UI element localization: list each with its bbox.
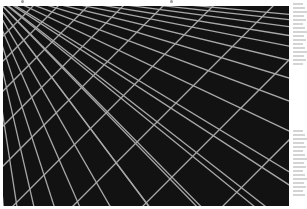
margin-text-line bbox=[293, 63, 303, 65]
grid-lines bbox=[3, 6, 289, 206]
margin-text-line bbox=[293, 3, 303, 5]
margin-text-line bbox=[293, 35, 304, 37]
margin-text-line bbox=[293, 178, 307, 180]
margin-text-line bbox=[293, 194, 305, 196]
margin-text-line bbox=[293, 7, 305, 9]
margin-text-line bbox=[293, 134, 305, 136]
margin-text-line bbox=[293, 130, 303, 132]
margin-text-line bbox=[293, 182, 304, 184]
margin-text-block-upper bbox=[293, 3, 307, 67]
margin-text-block-lower bbox=[293, 130, 307, 198]
margin-text-line bbox=[293, 158, 307, 160]
margin-text-line bbox=[293, 55, 304, 57]
margin-text-line bbox=[293, 146, 306, 148]
margin-text-line bbox=[293, 174, 305, 176]
margin-text-line bbox=[293, 186, 306, 188]
margin-text-line bbox=[293, 162, 304, 164]
margin-text-line bbox=[293, 19, 306, 21]
margin-text-line bbox=[293, 166, 306, 168]
margin-text-line bbox=[293, 15, 304, 17]
text-fragment bbox=[170, 0, 173, 3]
margin-text-line bbox=[293, 43, 303, 45]
margin-text-line bbox=[293, 190, 303, 192]
margin-text-line bbox=[293, 170, 303, 172]
perspective-grid-figure bbox=[3, 6, 289, 206]
margin-text-line bbox=[293, 142, 304, 144]
margin-text-line bbox=[293, 51, 307, 53]
margin-text-line bbox=[293, 11, 307, 13]
margin-text-line bbox=[293, 23, 303, 25]
text-fragment bbox=[21, 0, 24, 3]
margin-text-line bbox=[293, 47, 305, 49]
margin-text-line bbox=[293, 27, 305, 29]
margin-text-line bbox=[293, 138, 307, 140]
margin-text-line bbox=[293, 150, 303, 152]
margin-text-line bbox=[293, 59, 306, 61]
margin-text-line bbox=[293, 31, 307, 33]
margin-text-line bbox=[293, 154, 305, 156]
margin-text-line bbox=[293, 39, 306, 41]
